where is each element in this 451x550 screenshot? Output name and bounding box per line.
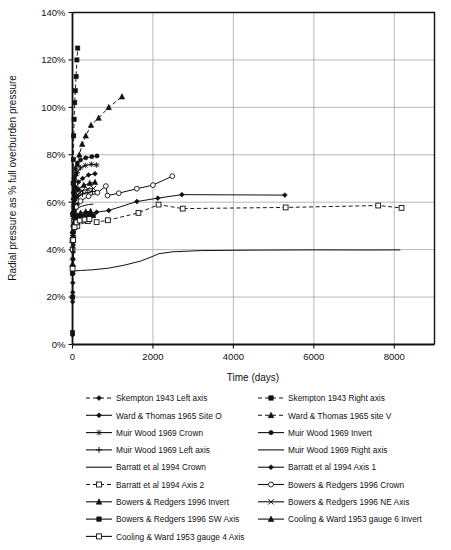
radial-pressure-chart: 02000400060008000 0%20%40%60%80%100%120%… <box>0 0 451 550</box>
legend-sample-marker <box>96 430 102 436</box>
series-marker <box>86 194 91 199</box>
series-marker <box>72 117 76 121</box>
series-marker <box>105 193 110 198</box>
series-marker <box>83 163 89 169</box>
series-marker <box>78 199 83 204</box>
series-marker <box>72 176 76 180</box>
legend-sample-marker <box>97 517 101 521</box>
legend-item-label: Barratt et al 1994 Crown <box>116 462 206 472</box>
y-tick-label: 40% <box>46 244 66 255</box>
series-marker <box>77 218 82 223</box>
x-tick-label: 0 <box>70 351 75 362</box>
series-marker <box>103 184 108 189</box>
series-marker <box>78 158 82 162</box>
series-marker <box>82 217 87 222</box>
legend-sample-marker <box>97 534 102 539</box>
legend-item-label: Skempton 1943 Left axis <box>116 393 207 403</box>
chart-background <box>0 0 451 550</box>
series-marker <box>76 46 80 50</box>
legend-item-label: Muir Wood 1969 Invert <box>288 428 372 438</box>
legend-item-label: Bowers & Redgers 1996 Invert <box>116 497 230 507</box>
x-tick-label: 4000 <box>223 351 244 362</box>
legend-sample-marker <box>269 396 273 400</box>
series-marker <box>283 205 288 210</box>
y-axis-title: Radial pressure as % full overburden pre… <box>7 75 18 281</box>
series-marker <box>399 206 404 211</box>
legend-sample-marker <box>269 430 273 434</box>
series-marker <box>170 174 175 179</box>
legend-item-label: Ward & Thomas 1965 site V <box>288 411 392 421</box>
series-marker <box>72 134 76 138</box>
series-marker <box>87 217 92 222</box>
series-marker <box>70 266 75 271</box>
y-tick-label: 80% <box>46 149 66 160</box>
series-marker <box>73 101 77 105</box>
x-axis-title: Time (days) <box>227 372 279 383</box>
series-marker <box>180 206 185 211</box>
series-marker <box>94 162 100 168</box>
x-tick-label: 2000 <box>142 351 163 362</box>
legend-item-label: Cooling & Ward 1953 gauge 4 Axis <box>116 532 244 542</box>
legend-item-label: Bowers & Redgers 1996 Crown <box>288 480 405 490</box>
y-tick-label: 20% <box>46 291 66 302</box>
legend-item-label: Muir Wood 1969 Left axis <box>116 445 210 455</box>
series-marker <box>73 89 77 93</box>
series-marker <box>73 167 77 171</box>
legend-item-label: Bowers & Redgers 1996 NE Axis <box>288 497 409 507</box>
series-marker <box>71 238 76 243</box>
series-marker <box>75 58 79 62</box>
series-marker <box>156 202 161 207</box>
series-marker <box>84 156 88 160</box>
series-marker <box>94 220 99 225</box>
legend-item-label: Skempton 1943 Right axis <box>288 393 385 403</box>
y-tick-label: 60% <box>46 197 66 208</box>
series-marker <box>74 74 78 78</box>
series-marker <box>90 155 94 159</box>
series-marker <box>78 165 84 171</box>
series-marker <box>71 295 75 299</box>
legend-sample-marker <box>97 482 102 487</box>
series-marker <box>71 157 75 161</box>
x-tick-label: 6000 <box>303 351 324 362</box>
series-marker <box>95 154 99 158</box>
series-marker <box>72 225 77 230</box>
series-marker <box>151 183 156 188</box>
series-marker <box>376 203 381 208</box>
series-marker <box>70 331 74 335</box>
series-marker <box>116 191 121 196</box>
y-tick-label: 0% <box>52 339 66 350</box>
series-marker <box>136 210 141 215</box>
series-marker <box>89 161 95 167</box>
legend-sample-marker <box>269 482 274 487</box>
chart-figure: 02000400060008000 0%20%40%60%80%100%120%… <box>0 0 451 550</box>
legend-item-label: Cooling & Ward 1953 gauge 6 Invert <box>288 514 423 524</box>
legend-item-label: Bowers & Redgers 1996 SW Axis <box>116 514 239 524</box>
legend-item-label: Muir Wood 1969 Crown <box>116 428 203 438</box>
legend-item-label: Ward & Thomas 1965 Site O <box>116 411 222 421</box>
y-tick-label: 140% <box>41 7 66 18</box>
y-tick-label: 100% <box>41 102 66 113</box>
y-tick-label: 120% <box>41 54 66 65</box>
legend-item-label: Muir Wood 1969 Right axis <box>288 445 387 455</box>
legend-item-label: Barratt et al 1994 Axis 1 <box>288 462 376 472</box>
series-marker <box>70 271 74 275</box>
x-tick-label: 8000 <box>384 351 405 362</box>
series-marker <box>134 186 139 191</box>
legend-item-label: Barratt et al 1994 Axis 2 <box>116 480 204 490</box>
series-marker <box>105 218 110 223</box>
